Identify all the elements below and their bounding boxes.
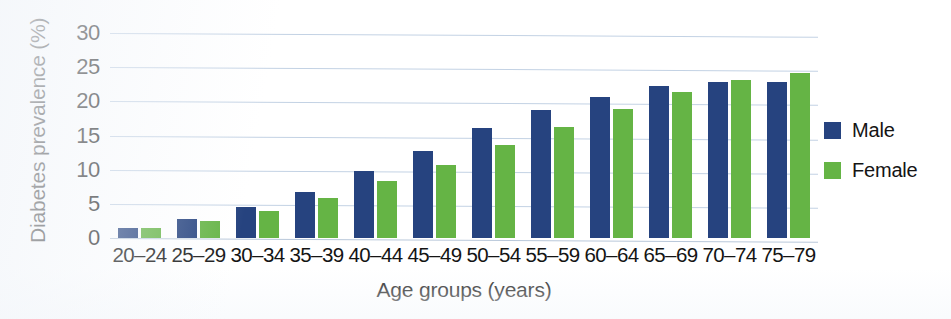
bar-female-50–54[interactable] <box>495 145 515 238</box>
bar-female-65–69[interactable] <box>672 92 692 238</box>
bar-male-35–39[interactable] <box>295 192 315 238</box>
legend-item-female[interactable]: Female <box>824 150 951 190</box>
legend-swatch-female-icon <box>824 162 841 179</box>
bar-male-60–64[interactable] <box>590 97 610 238</box>
bar-female-40–44[interactable] <box>377 181 397 238</box>
legend-label: Male <box>852 119 895 142</box>
bar-male-40–44[interactable] <box>354 171 374 238</box>
x-axis-title: Age groups (years) <box>110 278 818 302</box>
legend-label: Female <box>852 159 918 182</box>
legend-item-male[interactable]: Male <box>824 110 951 150</box>
bar-male-65–69[interactable] <box>649 86 669 238</box>
bar-male-55–59[interactable] <box>531 110 551 238</box>
y-tick-label-10: 10 <box>76 157 100 183</box>
bars-layer <box>110 33 818 238</box>
bar-group <box>469 33 528 238</box>
y-tick-label-25: 25 <box>76 54 100 80</box>
bar-group <box>764 33 823 238</box>
bar-male-75–79[interactable] <box>767 82 787 238</box>
bar-male-25–29[interactable] <box>177 219 197 238</box>
bar-group <box>174 33 233 238</box>
bar-male-20–24[interactable] <box>118 228 138 238</box>
chart-legend: MaleFemale <box>824 110 951 190</box>
bar-male-45–49[interactable] <box>413 151 433 238</box>
legend-swatch-male-icon <box>824 122 841 139</box>
bar-female-55–59[interactable] <box>554 127 574 238</box>
bar-female-60–64[interactable] <box>613 109 633 238</box>
bar-female-75–79[interactable] <box>790 73 810 238</box>
bar-group <box>528 33 587 238</box>
bar-female-35–39[interactable] <box>318 198 338 238</box>
x-tick-label-75–79: 75–79 <box>753 243 824 267</box>
bar-male-30–34[interactable] <box>236 207 256 238</box>
bar-group <box>410 33 469 238</box>
y-tick-label-0: 0 <box>88 225 100 251</box>
bar-group <box>115 33 174 238</box>
y-axis-tick-labels: 051015202530 <box>38 33 100 238</box>
y-tick-label-5: 5 <box>88 191 100 217</box>
bar-female-30–34[interactable] <box>259 211 279 238</box>
x-axis-tick-labels: 20–2425–2930–3435–3940–4445–4950–5455–59… <box>110 243 818 269</box>
diabetes-prevalence-bar-chart: Diabetes prevalence (%) 051015202530 20–… <box>0 0 951 319</box>
bar-male-50–54[interactable] <box>472 128 492 238</box>
bar-group <box>646 33 705 238</box>
bar-female-25–29[interactable] <box>200 221 220 238</box>
y-tick-label-15: 15 <box>76 123 100 149</box>
bar-male-70–74[interactable] <box>708 82 728 238</box>
y-tick-label-30: 30 <box>76 20 100 46</box>
bar-group <box>705 33 764 238</box>
bar-group <box>292 33 351 238</box>
bar-group <box>351 33 410 238</box>
bar-female-45–49[interactable] <box>436 165 456 238</box>
gridline-0 <box>110 238 818 243</box>
bar-group <box>233 33 292 238</box>
y-tick-label-20: 20 <box>76 88 100 114</box>
bar-female-20–24[interactable] <box>141 228 161 238</box>
bar-group <box>587 33 646 238</box>
bar-female-70–74[interactable] <box>731 80 751 238</box>
